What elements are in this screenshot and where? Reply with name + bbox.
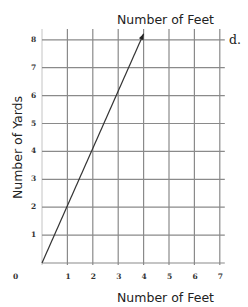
x-tick-label: 6 — [192, 272, 197, 281]
y-tick-label: 3 — [31, 174, 36, 183]
y-tick-label: 5 — [31, 119, 36, 128]
grid-lines — [42, 29, 225, 265]
x-tick-label: 7 — [218, 272, 223, 281]
x-tick-label: 1 — [65, 272, 70, 281]
problem-label: d. — [229, 32, 241, 47]
y-tick-label: 4 — [31, 146, 36, 155]
y-tick-label: 8 — [31, 35, 36, 44]
y-tick-label: 1 — [31, 230, 36, 239]
y-tick-label: 6 — [31, 91, 36, 100]
y-tick-label: 7 — [31, 63, 36, 72]
y-tick-label: 2 — [31, 202, 36, 211]
x-tick-label: 4 — [142, 272, 147, 281]
y-axis-label: Number of Yards — [10, 93, 25, 203]
chart-title: Number of Feet — [117, 12, 214, 27]
chart-plot-area — [0, 0, 248, 307]
x-tick-label: 3 — [116, 272, 121, 281]
x-axis-label: Number of Feet — [117, 290, 214, 305]
y-tick-label: 0 — [13, 272, 18, 281]
x-tick-label: 5 — [167, 272, 172, 281]
x-tick-label: 2 — [91, 272, 96, 281]
